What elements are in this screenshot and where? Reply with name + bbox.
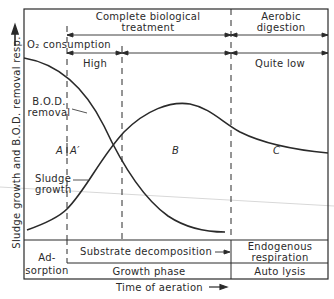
region-b-label: B <box>172 145 179 156</box>
endogenous-respiration-label: Endogenous respiration <box>232 241 328 263</box>
complete-treatment-label: Complete biological treatment <box>78 11 218 33</box>
aerobic-digestion-label: Aerobic digestion <box>238 11 324 33</box>
o2-quite-low-label: Quite low <box>240 58 320 69</box>
substrate-arrow <box>215 250 230 254</box>
endogenous-line1: Endogenous <box>232 241 328 252</box>
adsorption-line2: sorption <box>24 265 70 276</box>
complete-treatment-line1: Complete biological <box>78 11 218 22</box>
sludge-label-line1: Sludge <box>35 173 72 184</box>
sludge-growth-curve <box>27 103 328 230</box>
o2-low-span-arrow <box>231 51 328 55</box>
sludge-growth-label: Sludge growth <box>35 173 72 195</box>
bod-removal-curve <box>24 58 225 232</box>
o2-high-label: High <box>70 58 120 69</box>
endogenous-line2: respiration <box>232 252 328 263</box>
bod-label-line1: B.O.D. <box>24 96 74 107</box>
y-axis-label: Sludge growth and B.O.D. removal resp. <box>11 13 22 273</box>
bod-removal-label: B.O.D. removal <box>24 96 74 118</box>
substrate-decomposition-label: Substrate decomposition <box>80 246 212 257</box>
digestion-span-arrow <box>231 33 328 37</box>
region-a-prime-label: A′ <box>70 145 80 156</box>
bod-label-leader <box>72 109 87 113</box>
treatment-span-arrow <box>67 33 231 37</box>
bod-label-line2: removal <box>24 107 74 118</box>
x-axis-arrow-icon <box>209 285 227 290</box>
region-a-label: A <box>56 145 63 156</box>
autolysis-label: Auto lysis <box>232 266 328 277</box>
aerobic-digestion-line2: digestion <box>238 22 324 33</box>
region-c-label: C <box>273 145 280 156</box>
growth-phase-label: Growth phase <box>67 266 231 277</box>
adsorption-line1: Ad- <box>24 252 70 263</box>
x-axis-label: Time of aeration <box>116 282 203 293</box>
o2-consumption-label: O₂ consumption <box>27 39 111 50</box>
o2-mid-span-arrow <box>122 51 231 55</box>
o2-high-span-arrow <box>67 51 122 55</box>
sludge-label-line2: growth <box>35 184 72 195</box>
complete-treatment-line2: treatment <box>78 22 218 33</box>
aerobic-digestion-line1: Aerobic <box>238 11 324 22</box>
adsorption-label: Ad- sorption <box>24 252 70 276</box>
